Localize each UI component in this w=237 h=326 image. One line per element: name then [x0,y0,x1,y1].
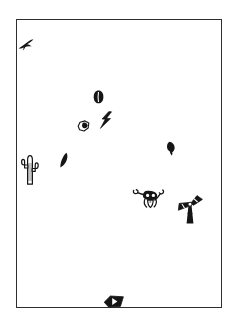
scene-canvas [0,0,237,326]
motif-seed [93,90,104,104]
motif-pebble [77,120,90,132]
motif-lightning [99,111,113,129]
lightning-bolt-icon [99,111,113,129]
motif-bird [17,38,35,52]
bird-icon [17,38,35,52]
motif-cactus [19,151,41,185]
arrowhead-icon [103,295,125,308]
motif-arrowhead [103,295,125,308]
motif-sprout [59,152,69,168]
motif-bud [166,141,176,156]
windmill-icon [177,195,205,224]
seed-icon [93,90,104,104]
sprout-icon [59,152,69,168]
cactus-icon [19,151,41,185]
steer-skull-icon [132,185,165,210]
pebble-icon [77,120,90,132]
motif-skull [132,185,165,210]
bordered-panel [16,19,222,308]
bud-icon [166,141,176,156]
motif-windmill [177,195,205,224]
